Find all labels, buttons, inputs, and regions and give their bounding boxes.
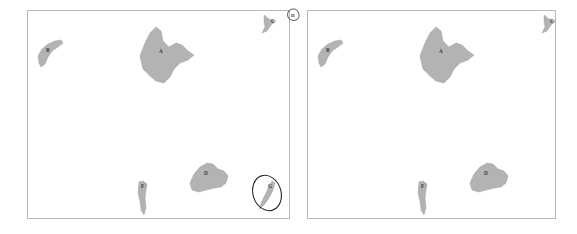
region-a-label: A — [439, 48, 443, 54]
right-map-svg: B A C D F — [308, 11, 557, 220]
region-g-label: G — [268, 183, 272, 189]
region-a-polygon[interactable] — [420, 27, 474, 83]
region-g[interactable]: G — [259, 181, 275, 209]
region-a[interactable]: A — [140, 27, 194, 83]
region-d-polygon[interactable] — [190, 163, 228, 192]
region-d-label: D — [204, 170, 208, 176]
region-c-polygon[interactable] — [542, 15, 556, 33]
region-b-polygon[interactable] — [38, 40, 63, 67]
region-d-polygon[interactable] — [470, 163, 508, 192]
region-d[interactable]: D — [190, 163, 228, 192]
figure-canvas: B A C D F G — [0, 0, 577, 234]
region-b-label: B — [326, 47, 330, 53]
left-map-panel[interactable]: B A C D F G — [27, 10, 290, 219]
region-c[interactable]: C — [262, 15, 276, 33]
region-d[interactable]: D — [470, 163, 508, 192]
region-c-label: C — [271, 18, 275, 24]
marker-label: H — [291, 13, 295, 18]
left-map-svg: B A C D F G — [28, 11, 291, 220]
region-f[interactable]: F — [418, 181, 427, 215]
region-b[interactable]: B — [38, 40, 63, 67]
region-a[interactable]: A — [420, 27, 474, 83]
region-b-label: B — [46, 47, 50, 53]
region-f-label: F — [141, 183, 144, 189]
circled-marker-top-right[interactable]: H — [278, 5, 308, 27]
region-c[interactable]: C — [542, 15, 556, 33]
region-f-label: F — [421, 183, 424, 189]
region-c-label: C — [550, 18, 554, 24]
region-a-polygon[interactable] — [140, 27, 194, 83]
region-b-polygon[interactable] — [318, 40, 343, 67]
region-b[interactable]: B — [318, 40, 343, 67]
region-f[interactable]: F — [138, 181, 147, 215]
region-d-label: D — [484, 170, 488, 176]
right-map-panel[interactable]: B A C D F — [307, 10, 556, 219]
region-g-polygon[interactable] — [259, 181, 275, 209]
region-a-label: A — [159, 48, 163, 54]
